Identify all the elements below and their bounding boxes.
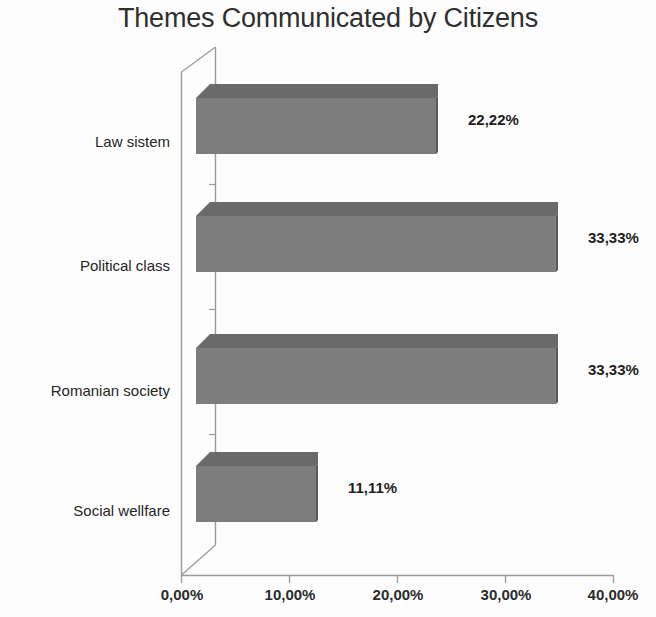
category-label-3: Social wellfare [0,502,170,519]
data-label-2: 33,33% [588,361,639,378]
category-label-1: Political class [0,257,170,274]
bar-top-face [196,334,558,348]
bar-front-face [196,98,436,154]
bar-top-face [196,202,558,216]
bar-political-class[interactable] [182,202,558,274]
data-label-1: 33,33% [588,229,639,246]
x-tick-label-2: 20,00% [373,586,424,603]
plot-area: Law sistem Political class Romanian soci… [0,0,656,617]
bar-social-wellfare[interactable] [182,452,318,524]
data-label-0: 22,22% [468,111,519,128]
x-tick-label-4: 40,00% [588,586,639,603]
bar-top-face [196,452,318,466]
category-label-0: Law sistem [0,133,170,150]
x-tick-label-1: 10,00% [265,586,316,603]
x-tick-label-0: 0,00% [161,586,204,603]
bar-front-face [196,466,316,522]
x-tick-label-3: 30,00% [481,586,532,603]
chart-container: Themes Communicated by Citizens [0,0,656,617]
bar-front-face [196,348,556,404]
bar-top-face [196,84,438,98]
bar-shape [182,84,438,156]
bar-shape [182,202,558,274]
data-label-3: 11,11% [348,479,397,496]
axis-depth-connector-top [182,47,216,72]
bar-romanian-society[interactable] [182,334,558,406]
bar-shape [182,334,558,406]
bar-law-sistem[interactable] [182,84,438,156]
bar-front-face [196,216,556,272]
bar-shape [182,452,318,524]
category-label-2: Romanian society [0,382,170,399]
axis-depth-connector-bottom [182,545,216,575]
